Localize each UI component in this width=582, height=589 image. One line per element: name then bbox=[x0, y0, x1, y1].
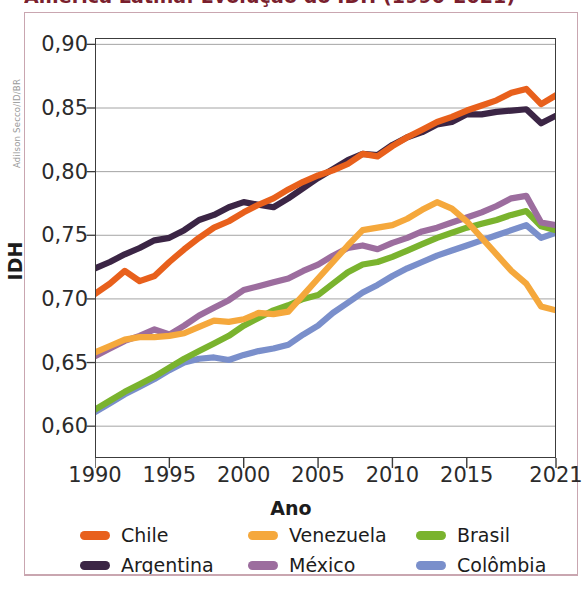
legend-label: Venezuela bbox=[289, 524, 387, 546]
plot-area bbox=[95, 38, 556, 458]
legend-swatch-icon bbox=[248, 531, 278, 540]
legend-label: México bbox=[289, 554, 355, 576]
legend-item-mxico[interactable]: México bbox=[248, 554, 355, 576]
chart-legend: ChileArgentinaVenezuelaMéxicoBrasilColôm… bbox=[80, 524, 550, 580]
x-tick-label: 2005 bbox=[291, 463, 344, 487]
legend-label: Argentina bbox=[121, 554, 214, 576]
legend-label: Brasil bbox=[457, 524, 510, 546]
x-tick-label: 2010 bbox=[366, 463, 419, 487]
legend-item-argentina[interactable]: Argentina bbox=[80, 554, 214, 576]
x-tick-label: 2015 bbox=[440, 463, 493, 487]
chart-figure: América Latina: Evolução do IDH (1990-20… bbox=[0, 0, 582, 589]
legend-swatch-icon bbox=[416, 561, 446, 570]
y-tick-label: 0,70 bbox=[26, 287, 88, 311]
x-tick-label: 1990 bbox=[68, 463, 121, 487]
card-bottom-rule bbox=[24, 574, 578, 576]
y-tick-label: 0,90 bbox=[26, 32, 88, 56]
chart-title-clipped: América Latina: Evolução do IDH (1990-20… bbox=[24, 0, 580, 11]
legend-item-colmbia[interactable]: Colômbia bbox=[416, 554, 546, 576]
legend-label: Colômbia bbox=[457, 554, 546, 576]
legend-swatch-icon bbox=[416, 531, 446, 540]
y-axis-ticks bbox=[86, 38, 96, 459]
legend-swatch-icon bbox=[80, 531, 110, 540]
legend-label: Chile bbox=[121, 524, 169, 546]
x-axis-tick-labels: 1990199520002005201020152021 bbox=[95, 463, 556, 493]
y-tick-label: 0,60 bbox=[26, 414, 88, 438]
x-tick-label: 1995 bbox=[143, 463, 196, 487]
legend-item-venezuela[interactable]: Venezuela bbox=[248, 524, 387, 546]
legend-item-brasil[interactable]: Brasil bbox=[416, 524, 510, 546]
y-axis-tick-labels: 0,600,650,700,750,800,850,90 bbox=[14, 38, 88, 458]
y-tick-label: 0,65 bbox=[26, 351, 88, 375]
y-tick-label: 0,75 bbox=[26, 223, 88, 247]
y-tick-label: 0,80 bbox=[26, 160, 88, 184]
x-tick-label: 2021 bbox=[529, 463, 582, 487]
legend-swatch-icon bbox=[248, 561, 278, 570]
chart-title: América Latina: Evolução do IDH (1990-20… bbox=[24, 0, 515, 7]
x-axis-title: Ano bbox=[0, 497, 582, 519]
legend-swatch-icon bbox=[80, 561, 110, 570]
x-tick-label: 2000 bbox=[217, 463, 270, 487]
legend-item-chile[interactable]: Chile bbox=[80, 524, 169, 546]
plot-border bbox=[95, 38, 556, 458]
y-tick-label: 0,85 bbox=[26, 96, 88, 120]
